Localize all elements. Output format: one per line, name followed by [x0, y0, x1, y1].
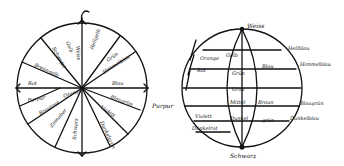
sphere-bottom-label: Schwarz: [230, 152, 257, 159]
diagram-label: Rot: [196, 67, 207, 73]
circle-labels: SchwefelGelbWeissHellgelbGrünHimmelblauB…: [26, 28, 134, 150]
diagram-label: Hellblau: [287, 45, 310, 51]
diagram-label: Orange: [200, 55, 219, 62]
diagram-label: Orange: [62, 87, 82, 100]
diagram-label: Schwefel: [50, 46, 67, 70]
white-pole-dot: [240, 27, 244, 31]
diagram-label: Purpur: [26, 94, 46, 104]
diagram-label: Weiss: [75, 46, 82, 61]
diagram-label: Blaugrün: [108, 93, 133, 108]
diagram-label: Blaugrün: [299, 100, 324, 107]
diagram-canvas: SchwefelGelbWeissHellgelbGrünHimmelblauB…: [0, 0, 344, 166]
diagram-label: Grün: [232, 70, 245, 76]
diagram-label: Blau: [261, 63, 273, 69]
diagram-label: Braun: [257, 99, 274, 105]
diagram-label: Grau: [232, 86, 245, 92]
black-pole-dot: [239, 144, 244, 149]
diagram-label: Gelb: [226, 52, 238, 58]
hatching: [186, 40, 196, 90]
diagram-label: Dunkelrot: [191, 125, 218, 131]
diagram-label: Rot: [27, 80, 38, 86]
diagram-label: Gelb: [65, 40, 75, 53]
diagram-label: Mittel: [229, 99, 246, 105]
sphere-top-label: Weiss: [247, 22, 264, 29]
diagram-label: Violett: [195, 113, 213, 119]
diagram-label: Himmelblau: [299, 61, 331, 67]
diagram-label: grün: [262, 117, 274, 124]
diagram-label: Hellgelb: [88, 28, 102, 52]
color-circle: SchwefelGelbWeissHellgelbGrünHimmelblauB…: [16, 11, 148, 156]
diagram-label: Dunkel: [229, 115, 248, 121]
diagram-label: Dunkelgrün: [98, 119, 117, 150]
sphere-left-label: Purpur: [151, 102, 174, 110]
diagram-label: Violett: [99, 104, 117, 119]
diagram-label: Braungelb: [32, 61, 60, 79]
color-sphere: Weiss Schwarz Purpur GelbGrünGrauMittelD…: [151, 22, 331, 159]
diagram-label: Dunkelblau: [289, 115, 319, 121]
diagram-label: Schwarz: [71, 118, 79, 141]
diagram-label: Blau: [111, 80, 123, 86]
